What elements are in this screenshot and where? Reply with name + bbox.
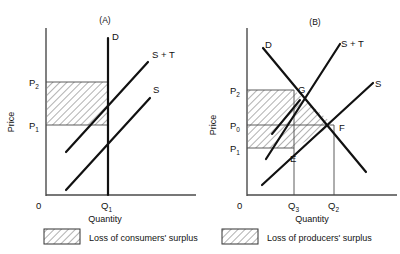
panel-b-point-f: F (339, 122, 345, 133)
legend-a-swatch (44, 229, 80, 244)
panel-b-xlabel: Quantity (295, 214, 329, 224)
panel-b-label-d: D (265, 39, 272, 50)
panel-b-origin-label: 0 (237, 200, 242, 211)
legend-b-swatch (222, 229, 258, 244)
economics-figure: (A) D S + T S P2 P1 Q1 0 Quantity Price … (0, 0, 400, 254)
panel-a-label-s: S (153, 84, 159, 95)
panel-b-label-s-plus-t: S + T (341, 38, 364, 49)
panel-b-point-e: E (290, 153, 296, 164)
panel-a-label-s-plus-t: S + T (152, 49, 175, 60)
panel-a-label-d: D (112, 31, 119, 42)
panel-a-ylabel: Price (6, 112, 16, 133)
legend-b-label: Loss of producers' surplus (267, 233, 372, 243)
panel-b-shaded-rect (248, 90, 294, 148)
figure-svg: (A) D S + T S P2 P1 Q1 0 Quantity Price … (0, 0, 400, 254)
panel-a-xlabel: Quantity (88, 214, 122, 224)
panel-b-ylabel: Price (208, 115, 218, 136)
legend-a-label: Loss of consumers' surplus (89, 233, 198, 243)
panel-a-origin-label: 0 (36, 200, 41, 211)
panel-b-label-s: S (375, 78, 381, 89)
panel-a-shaded-region (47, 82, 108, 125)
panel-b-point-g: G (298, 84, 305, 95)
panel-b-title: (B) (309, 17, 321, 27)
panel-a-title: (A) (99, 15, 111, 25)
